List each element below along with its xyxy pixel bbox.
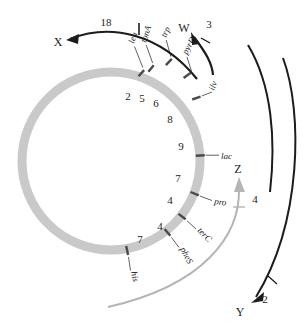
gene-leader-pheS [171,237,179,247]
gene-tick-trp [166,59,172,65]
gene-leader-leu [135,47,143,68]
gene-leader-ilv [202,92,212,96]
donor-y-arc [256,58,295,297]
gene-tick-tonA [148,65,153,72]
outer-black-arc-1 [248,45,272,192]
donor-z-group: Z 4 [108,162,258,307]
interval-number-5: 9 [178,140,184,152]
gene-leader-his [129,257,131,271]
interval-number-9: 7 [137,233,143,245]
donor-y-group: Y 2 [236,58,296,319]
gene-tick-lac [196,155,205,156]
donor-w-arrowhead [191,32,200,45]
gene-label-terC: terC [196,225,215,244]
interval-number-6: 7 [175,172,181,184]
donor-x-label: X [54,35,63,49]
chromosome-ring [22,72,200,250]
interval-number-1: 2 [125,90,131,102]
gene-label-ilv: ilv [207,80,220,92]
donor-w-label: W [178,21,190,35]
genetic-map-figure: leu tonA trp pyrD ilv lac pro terC pheS … [0,0,308,328]
donor-z-arrowhead [234,177,245,192]
gene-label-lac: lac [221,151,232,161]
gene-leader-terC [187,221,196,229]
donor-z-label: Z [234,162,241,176]
donor-y-value: 2 [262,293,268,305]
genetic-map-svg: leu tonA trp pyrD ilv lac pro terC pheS … [0,0,308,328]
donor-w-origin-tick [201,38,210,43]
gene-leader-tonA [146,45,152,63]
donor-x-arrowhead [66,34,79,44]
donor-x-value: 18 [101,16,113,28]
gene-label-pro: pro [213,196,228,208]
gene-label-pheS: pheS [178,244,196,265]
gene-tick-ilv [192,97,200,100]
donor-z-value: 4 [252,193,258,205]
donor-w-value: 3 [206,18,212,30]
interval-number-4: 8 [167,113,173,125]
interval-number-2: 5 [139,92,145,104]
interval-number-8: 4 [157,220,163,232]
interval-number-3: 6 [153,97,159,109]
interval-number-7: 4 [167,194,173,206]
gene-label-his: his [129,270,141,283]
donor-y-label: Y [236,305,245,319]
gene-tick-pyrD [184,73,191,78]
donor-y-origin-tick [268,276,277,284]
gene-leader-pro [200,196,212,201]
gene-label-trp: trp [159,25,173,39]
